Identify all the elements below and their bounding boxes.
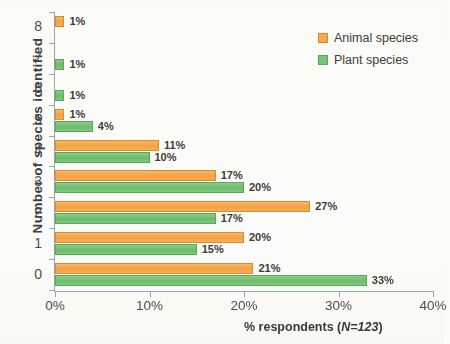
x-axis-tick-label: 0% — [32, 298, 78, 313]
y-axis-tick-label: 3 — [20, 173, 42, 189]
bar-plant-5[interactable] — [55, 121, 93, 132]
y-axis-tick-label: 4 — [20, 142, 42, 158]
x-axis-title-text: % respondents ( — [244, 320, 341, 334]
bar-animal-4[interactable] — [55, 140, 159, 151]
bar-value-label-animal-4: 11% — [164, 139, 185, 151]
x-axis-sample-size: N=123 — [341, 320, 378, 334]
bar-plant-7[interactable] — [55, 59, 64, 70]
legend-item-animal-species[interactable]: Animal species — [318, 28, 418, 47]
x-axis-tick — [244, 291, 245, 297]
y-axis-tick-label: 8 — [20, 18, 42, 34]
x-axis-tick-label: 30% — [316, 298, 362, 313]
x-axis-title-tail: ) — [378, 320, 382, 334]
bar-animal-0[interactable] — [55, 263, 253, 274]
x-axis-tick-label: 20% — [221, 298, 267, 313]
bar-value-label-plant-0: 33% — [372, 274, 394, 286]
x-axis-tick — [433, 291, 434, 297]
bar-plant-6[interactable] — [55, 90, 64, 101]
bar-animal-3[interactable] — [55, 170, 216, 181]
x-axis-tick — [55, 291, 56, 297]
bar-value-label-animal-8: 1% — [69, 15, 85, 27]
bar-animal-8[interactable] — [55, 16, 64, 27]
y-axis-tick — [49, 290, 55, 291]
bar-value-label-plant-3: 20% — [249, 181, 271, 193]
bar-value-label-animal-0: 21% — [258, 262, 280, 274]
bar-animal-5[interactable] — [55, 109, 64, 120]
y-axis-title: Number of species identified — [30, 11, 45, 261]
y-axis-tick-label: 1 — [20, 235, 42, 251]
y-axis-tick-label: 0 — [20, 266, 42, 282]
bar-value-label-animal-3: 17% — [221, 169, 243, 181]
bar-value-label-plant-7: 1% — [69, 58, 85, 70]
legend-swatch-icon-plant — [318, 55, 328, 65]
x-axis-title: % respondents (N=123) — [244, 320, 383, 334]
bar-plant-0[interactable] — [55, 275, 367, 286]
legend-label-plant: Plant species — [334, 53, 408, 67]
bar-animal-2[interactable] — [55, 201, 310, 212]
bar-value-label-plant-4: 10% — [155, 151, 177, 163]
legend-label-animal: Animal species — [334, 31, 418, 45]
x-axis-tick — [150, 291, 151, 297]
y-axis-tick-label: 2 — [20, 204, 42, 220]
bar-animal-1[interactable] — [55, 232, 244, 243]
legend-swatch-icon-animal — [318, 33, 328, 43]
bar-value-label-animal-2: 27% — [315, 200, 337, 212]
x-axis-tick-label: 40% — [410, 298, 450, 313]
y-axis-tick-label: 6 — [20, 80, 42, 96]
bar-plant-1[interactable] — [55, 244, 197, 255]
x-axis-tick-label: 10% — [127, 298, 173, 313]
chart-legend: Animal species Plant species — [318, 28, 418, 72]
bar-plant-4[interactable] — [55, 152, 150, 163]
y-axis-tick-label: 7 — [20, 49, 42, 65]
bar-value-label-animal-1: 20% — [249, 231, 271, 243]
x-axis-tick — [339, 291, 340, 297]
bar-plant-2[interactable] — [55, 213, 216, 224]
bar-value-label-plant-5: 4% — [98, 120, 114, 132]
y-axis-tick-label: 5 — [20, 111, 42, 127]
bar-value-label-animal-5: 1% — [69, 108, 85, 120]
bar-value-label-plant-2: 17% — [221, 212, 243, 224]
bar-value-label-plant-1: 15% — [202, 243, 224, 255]
bar-value-label-plant-6: 1% — [69, 89, 85, 101]
bar-plant-3[interactable] — [55, 182, 244, 193]
legend-item-plant-species[interactable]: Plant species — [318, 50, 418, 69]
